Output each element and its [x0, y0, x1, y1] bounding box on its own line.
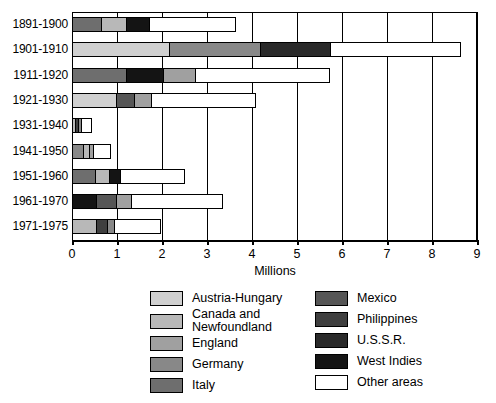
legend-item-u.s.s.r.[interactable]: U.S.S.R. [315, 330, 460, 351]
y-axis-label-1911-1920: 1911-1920 [2, 69, 68, 81]
legend-swatch-icon [150, 378, 183, 393]
legend-label: Austria-Hungary [192, 292, 282, 305]
legend-swatch-icon [315, 354, 348, 369]
x-tick-3 [207, 240, 209, 245]
y-axis-label-1931-1940: 1931-1940 [2, 119, 68, 131]
bar-1891-1900 [72, 17, 236, 32]
y-axis-label-1921-1930: 1921-1930 [2, 94, 68, 106]
bar-segment-west-indies [126, 17, 150, 32]
legend-swatch-icon [150, 357, 183, 372]
legend-column-right: MexicoPhilippinesU.S.S.R.West IndiesOthe… [315, 288, 460, 393]
legend-item-england[interactable]: England [150, 333, 295, 354]
legend-item-other-areas[interactable]: Other areas [315, 372, 460, 393]
y-axis-label-1961-1970: 1961-1970 [2, 195, 68, 207]
bar-segment-other-areas [195, 68, 330, 83]
x-tick-label-3: 3 [192, 247, 222, 261]
bar-segment-germany [169, 42, 262, 57]
legend-item-austria-hungary[interactable]: Austria-Hungary [150, 288, 295, 309]
bar-1961-1970 [72, 194, 223, 209]
bar-segment-austria-hungary [72, 93, 117, 108]
bar-segment-other-areas [93, 144, 111, 159]
plot-area [72, 12, 477, 240]
legend-column-left: Austria-HungaryCanada and NewfoundlandEn… [150, 288, 295, 396]
y-axis-label-1891-1900: 1891-1900 [2, 18, 68, 30]
bar-segment-italy [72, 17, 102, 32]
bar-1941-1950 [72, 144, 111, 159]
bar-segment-other-areas [131, 194, 223, 209]
x-tick-5 [297, 240, 299, 245]
legend-swatch-icon [315, 291, 348, 306]
bar-segment-west-indies [126, 68, 164, 83]
x-tick-2 [162, 240, 164, 245]
legend-label: West Indies [357, 355, 422, 368]
gridline-9 [477, 12, 478, 240]
legend: Austria-HungaryCanada and NewfoundlandEn… [150, 288, 450, 393]
x-tick-label-5: 5 [282, 247, 312, 261]
legend-label: Germany [192, 358, 243, 371]
x-tick-label-2: 2 [147, 247, 177, 261]
legend-item-west-indies[interactable]: West Indies [315, 351, 460, 372]
x-tick-label-9: 9 [462, 247, 492, 261]
legend-item-mexico[interactable]: Mexico [315, 288, 460, 309]
x-tick-8 [432, 240, 434, 245]
x-tick-label-8: 8 [417, 247, 447, 261]
bar-segment-italy [72, 68, 127, 83]
bar-segment-mexico [116, 93, 134, 108]
x-tick-label-0: 0 [57, 247, 87, 261]
bar-1921-1930 [72, 93, 256, 108]
legend-swatch-icon [150, 336, 183, 351]
x-tick-label-1: 1 [102, 247, 132, 261]
x-tick-6 [342, 240, 344, 245]
bar-segment-other-areas [330, 42, 461, 57]
bar-segment-canada-and-newfoundland [95, 169, 110, 184]
y-axis-label-1941-1950: 1941-1950 [2, 145, 68, 157]
bar-1901-1910 [72, 42, 461, 57]
legend-item-canada-and[interactable]: Canada and Newfoundland [150, 309, 295, 333]
bar-segment-italy [72, 169, 96, 184]
bar-segment-other-areas [81, 118, 93, 133]
y-axis-label-1951-1960: 1951-1960 [2, 170, 68, 182]
bar-segment-england [116, 194, 133, 209]
legend-label: Italy [192, 379, 215, 392]
bar-segment-england [163, 68, 196, 83]
y-axis-category-labels: 1891-19001901-19101911-19201921-19301931… [0, 12, 68, 240]
bar-segment-other-areas [149, 17, 237, 32]
legend-swatch-icon [315, 333, 348, 348]
bar-1971-1975 [72, 219, 161, 234]
x-tick-9 [477, 240, 479, 245]
legend-item-italy[interactable]: Italy [150, 375, 295, 396]
legend-swatch-icon [315, 312, 348, 327]
bar-segment-austria-hungary [72, 42, 170, 57]
legend-item-philippines[interactable]: Philippines [315, 309, 460, 330]
legend-label: Canada and Newfoundland [192, 308, 272, 334]
x-axis-title: Millions [72, 264, 478, 278]
bar-segment-other-areas [151, 93, 256, 108]
legend-item-germany[interactable]: Germany [150, 354, 295, 375]
legend-label: Other areas [357, 376, 423, 389]
x-tick-1 [117, 240, 119, 245]
bar-segment-england [134, 93, 152, 108]
bar-1931-1940 [72, 118, 92, 133]
bar-segment-canada-and-newfoundland [101, 17, 127, 32]
x-tick-label-6: 6 [327, 247, 357, 261]
x-axis-line [72, 240, 478, 242]
y-axis-label-1901-1910: 1901-1910 [2, 43, 68, 55]
y-axis-label-1971-1975: 1971-1975 [2, 220, 68, 232]
bar-segment-canada-and-newfoundland [72, 219, 97, 234]
legend-swatch-icon [315, 375, 348, 390]
legend-swatch-icon [150, 291, 183, 306]
x-tick-0 [72, 240, 74, 245]
x-tick-7 [387, 240, 389, 245]
bar-segment-other-areas [120, 169, 184, 184]
legend-label: England [192, 337, 238, 350]
x-tick-label-7: 7 [372, 247, 402, 261]
x-tick-label-4: 4 [237, 247, 267, 261]
bar-segment-mexico [96, 194, 117, 209]
legend-label: U.S.S.R. [357, 334, 406, 347]
immigration-stacked-bar-chart: 1891-19001901-19101911-19201921-19301931… [0, 0, 496, 403]
bar-segment-u.s.s.r. [260, 42, 331, 57]
bar-1911-1920 [72, 68, 330, 83]
bar-segment-other-areas [114, 219, 161, 234]
bar-segment-west-indies [72, 194, 97, 209]
legend-swatch-icon [150, 314, 183, 329]
